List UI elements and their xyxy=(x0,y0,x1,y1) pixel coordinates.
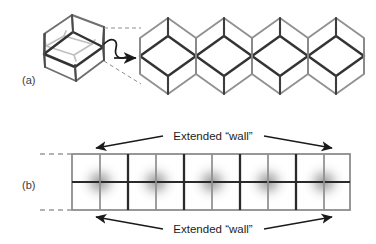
extended-wall-label-top: Extended “wall” xyxy=(173,130,252,142)
bottom-wall-annotation: Extended “wall” xyxy=(96,217,332,235)
unit-cell-wireframe xyxy=(44,15,104,81)
dashed-continuations xyxy=(40,154,72,210)
squiggle-arrow-icon xyxy=(104,40,136,58)
top-wall-annotation: Extended “wall” xyxy=(96,130,332,148)
figure-canvas: (a) xyxy=(0,0,376,244)
tessellation-row xyxy=(140,18,364,94)
bottom-right-arrow xyxy=(264,217,332,229)
panel-b-label: (b) xyxy=(22,179,35,191)
top-left-arrow xyxy=(96,136,163,148)
top-right-arrow xyxy=(264,136,332,148)
bottom-left-arrow xyxy=(96,217,163,229)
figure-root: (a) xyxy=(0,0,376,244)
projection-guides xyxy=(104,28,141,84)
panel-a-label: (a) xyxy=(22,74,35,86)
extended-wall-label-bottom: Extended “wall” xyxy=(173,223,252,235)
panel-a: (a) xyxy=(22,15,364,94)
panel-b: (b) xyxy=(22,130,350,235)
unit-cell-front-edges xyxy=(44,32,103,67)
shared-seams xyxy=(140,38,364,74)
